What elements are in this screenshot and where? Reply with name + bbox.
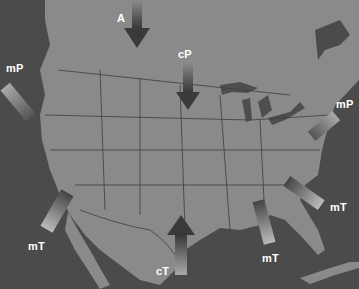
label-cT: cT [156,265,169,277]
label-mT-pacific: mT [28,240,45,252]
label-mT-gulf: mT [262,252,279,264]
air-mass-map: A cP mP mP mT cT mT mT [0,0,359,289]
north-america-land [40,0,359,285]
arrow-cP [176,62,200,112]
label-A: A [117,12,125,24]
arrow-cT [167,215,195,277]
label-cP: cP [178,48,192,60]
arrow-A [124,0,150,50]
cuba [300,262,359,284]
label-mP-west: mP [6,62,24,74]
label-mP-east: mP [336,98,354,110]
label-mT-atlantic: mT [330,201,347,213]
